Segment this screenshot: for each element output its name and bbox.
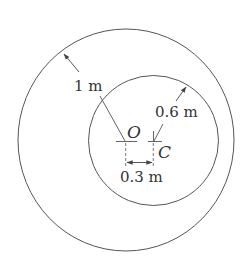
inner-radius-arrow (176, 87, 186, 101)
outer-circle (18, 29, 234, 251)
point-o-label: O (127, 124, 141, 141)
point-c-label: C (158, 144, 171, 161)
inner-radius-label: 0.6 m (155, 105, 198, 120)
outer-radius-line (100, 96, 125, 141)
outer-radius-label: 1 m (74, 79, 103, 94)
outer-radius-arrow (64, 54, 79, 72)
diagram-canvas (0, 0, 251, 262)
inner-radius-line (154, 124, 163, 141)
offset-label: 0.3 m (120, 170, 163, 185)
